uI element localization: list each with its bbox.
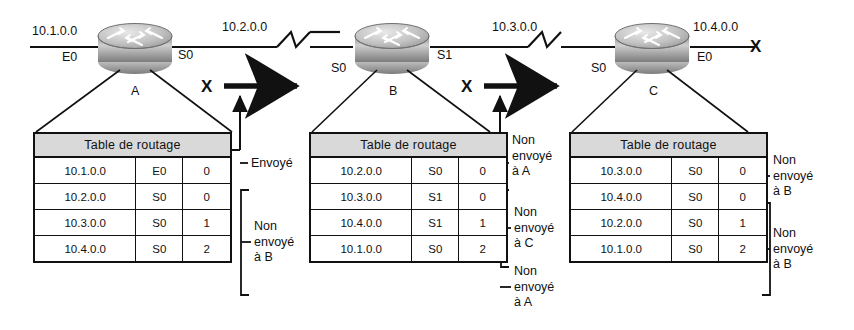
cell-metric: 1 [719, 210, 766, 235]
cell-interface: S0 [136, 184, 183, 209]
cell-network: 10.1.0.0 [35, 158, 136, 183]
routing-table-a-header: Table de routage [35, 134, 230, 158]
label-network-10-4-0-0: 10.4.0.0 [693, 20, 738, 35]
cell-metric: 1 [459, 210, 506, 235]
update-arrow-a-to-b [224, 86, 297, 150]
label-interface-a-s0: S0 [178, 48, 193, 63]
cell-interface: S0 [672, 236, 719, 261]
table-row: 10.4.0.0 S0 0 [571, 184, 766, 210]
cell-network: 10.3.0.0 [311, 184, 412, 209]
cell-network: 10.3.0.0 [571, 158, 672, 183]
label-interface-c-s0: S0 [591, 61, 606, 76]
annotation-b-not-sent-c: Non envoyé à C [514, 205, 554, 252]
cell-metric: 0 [459, 184, 506, 209]
cell-metric: 0 [719, 158, 766, 183]
cell-network: 10.2.0.0 [571, 210, 672, 235]
leader-lines-c [572, 70, 748, 132]
cell-interface: S1 [412, 210, 459, 235]
cell-interface: S0 [136, 236, 183, 261]
bracket-a-rows2to4 [241, 190, 251, 295]
cell-network: 10.1.0.0 [311, 236, 412, 261]
table-row: 10.4.0.0 S1 1 [311, 210, 506, 236]
routing-table-c: Table de routage 10.3.0.0 S0 0 10.4.0.0 … [569, 132, 768, 263]
cell-interface: S0 [412, 236, 459, 261]
routing-table-b-header: Table de routage [311, 134, 506, 158]
table-row: 10.3.0.0 S1 0 [311, 184, 506, 210]
label-router-a: A [131, 84, 139, 99]
label-network-10-2-0-0: 10.2.0.0 [222, 20, 267, 35]
annotation-a-sent: Envoyé [251, 156, 293, 172]
cell-network: 10.3.0.0 [35, 210, 136, 235]
label-interface-b-s1: S1 [437, 48, 452, 63]
annotation-c-not-sent-b-2: Non envoyé à B [773, 226, 813, 273]
table-row: 10.3.0.0 S0 0 [571, 158, 766, 184]
label-interface-b-s0: S0 [331, 61, 346, 76]
cell-metric: 2 [459, 236, 506, 261]
label-router-b: B [389, 84, 397, 99]
router-b-icon [355, 24, 429, 75]
label-network-10-1-0-0: 10.1.0.0 [32, 24, 77, 39]
cell-interface: S0 [672, 158, 719, 183]
table-row: 10.1.0.0 E0 0 [35, 158, 230, 184]
blocked-marker-a-to-b: X [201, 78, 212, 95]
table-row: 10.2.0.0 S0 1 [571, 210, 766, 236]
cell-metric: 0 [719, 184, 766, 209]
cell-network: 10.4.0.0 [311, 210, 412, 235]
routing-table-c-header: Table de routage [571, 134, 766, 158]
label-router-c: C [649, 84, 658, 99]
cell-network: 10.4.0.0 [35, 236, 136, 261]
label-interface-c-e0: E0 [697, 50, 712, 65]
table-row: 10.1.0.0 S0 2 [571, 236, 766, 261]
annotation-a-not-sent-b: Non envoyé à B [254, 219, 294, 266]
cell-interface: E0 [136, 158, 183, 183]
cell-metric: 0 [183, 184, 230, 209]
annotation-b-not-sent-a-1: Non envoyé à A [512, 133, 552, 180]
cell-network: 10.2.0.0 [311, 158, 412, 183]
router-c-icon [615, 24, 689, 75]
annotation-c-not-sent-b-1: Non envoyé à B [773, 153, 813, 200]
cell-interface: S0 [672, 210, 719, 235]
cell-metric: 0 [459, 158, 506, 183]
label-interface-a-e0: E0 [62, 50, 77, 65]
cell-interface: S0 [136, 210, 183, 235]
cell-interface: S1 [412, 184, 459, 209]
table-row: 10.2.0.0 S0 0 [311, 158, 506, 184]
failed-link-marker: X [750, 38, 761, 55]
cell-network: 10.1.0.0 [571, 236, 672, 261]
routing-table-a: Table de routage 10.1.0.0 E0 0 10.2.0.0 … [33, 132, 232, 263]
annotation-b-not-sent-a-2: Non envoyé à A [514, 264, 554, 311]
cell-interface: S0 [412, 158, 459, 183]
cell-network: 10.2.0.0 [35, 184, 136, 209]
table-row: 10.1.0.0 S0 2 [311, 236, 506, 261]
router-a-icon [98, 24, 172, 75]
cell-metric: 2 [719, 236, 766, 261]
cell-metric: 1 [183, 210, 230, 235]
label-network-10-3-0-0: 10.3.0.0 [492, 20, 537, 35]
cell-metric: 2 [183, 236, 230, 261]
table-row: 10.4.0.0 S0 2 [35, 236, 230, 261]
network-diagram: 10.1.0.0 E0 10.2.0.0 S0 A X S0 10.3.0.0 … [0, 0, 854, 330]
cell-metric: 0 [183, 158, 230, 183]
cell-network: 10.4.0.0 [571, 184, 672, 209]
table-row: 10.3.0.0 S0 1 [35, 210, 230, 236]
blocked-marker-b-to-c: X [461, 78, 472, 95]
routing-table-b: Table de routage 10.2.0.0 S0 0 10.3.0.0 … [309, 132, 508, 263]
cell-interface: S0 [672, 184, 719, 209]
table-row: 10.2.0.0 S0 0 [35, 184, 230, 210]
